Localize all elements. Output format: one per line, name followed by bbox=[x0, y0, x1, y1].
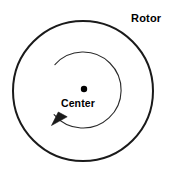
center-point-dot bbox=[81, 86, 87, 92]
center-label: Center bbox=[61, 98, 95, 109]
diagram-graphics bbox=[0, 0, 178, 182]
rotor-label: Rotor bbox=[131, 13, 161, 24]
rotor-diagram: Rotor Center bbox=[0, 0, 178, 182]
